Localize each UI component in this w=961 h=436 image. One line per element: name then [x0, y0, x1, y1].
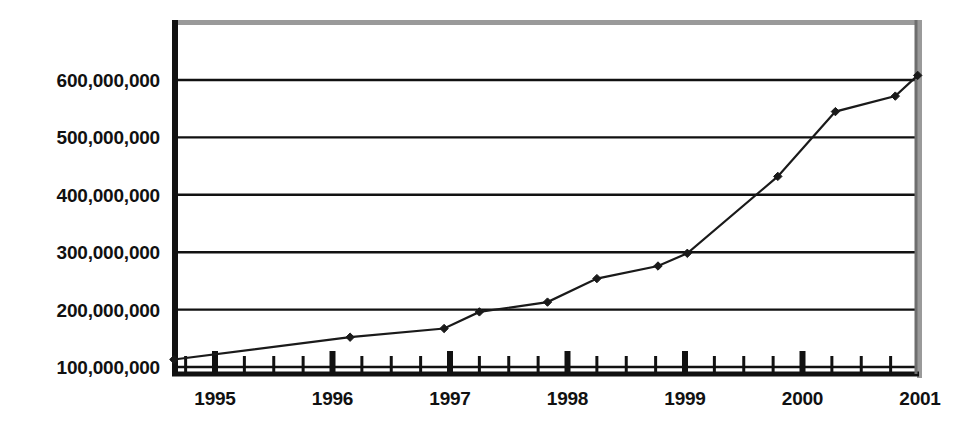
y-tick-label: 400,000,000 — [57, 185, 160, 206]
x-tick-label: 1999 — [664, 388, 705, 409]
x-tick-label: 1995 — [194, 388, 236, 409]
x-axis-tick-labels: 1995199619971998199920002001 — [194, 388, 941, 409]
line-chart-figure: 100,000,000200,000,000300,000,000400,000… — [0, 0, 961, 436]
x-tick-label: 1996 — [312, 388, 353, 409]
x-tick-label: 2000 — [782, 388, 823, 409]
y-tick-label: 100,000,000 — [57, 357, 160, 378]
plot-area-background — [172, 20, 917, 375]
x-tick-label: 2001 — [899, 388, 941, 409]
x-tick-label: 1997 — [429, 388, 470, 409]
y-tick-label: 200,000,000 — [57, 300, 160, 321]
y-tick-label: 500,000,000 — [57, 127, 160, 148]
y-axis-tick-labels: 100,000,000200,000,000300,000,000400,000… — [57, 70, 160, 378]
y-tick-label: 600,000,000 — [57, 70, 160, 91]
y-tick-label: 300,000,000 — [57, 242, 160, 263]
chart-canvas: 100,000,000200,000,000300,000,000400,000… — [0, 0, 961, 436]
x-tick-label: 1998 — [547, 388, 588, 409]
